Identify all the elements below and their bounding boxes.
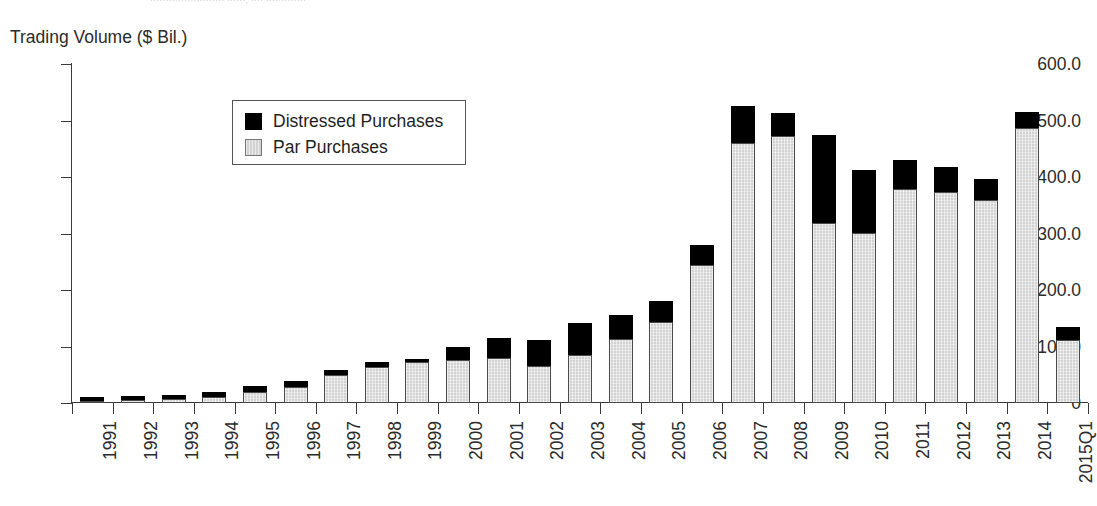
- bar-group[interactable]: [1015, 112, 1039, 403]
- bar-segment-par: [243, 392, 267, 403]
- bar-segment-par: [690, 265, 714, 403]
- x-tick-label: 1997: [344, 421, 365, 460]
- bar-segment-distressed: [1015, 112, 1039, 128]
- x-tick-label: 2005: [669, 421, 690, 460]
- x-tick-label: 2003: [588, 421, 609, 460]
- x-tick-mark: [275, 403, 276, 414]
- x-tick-mark: [844, 403, 845, 414]
- bar-segment-distressed: [771, 113, 795, 137]
- bar-segment-par: [568, 355, 592, 403]
- bar-group[interactable]: [934, 167, 958, 403]
- bar-segment-par: [934, 192, 958, 403]
- bar-segment-par: [162, 399, 186, 403]
- black-square-icon: [245, 113, 262, 130]
- x-tick-label: 2008: [791, 421, 812, 460]
- bar-group[interactable]: [649, 301, 673, 403]
- bar-group[interactable]: [162, 395, 186, 403]
- bar-group[interactable]: [568, 323, 592, 403]
- bar-segment-par: [365, 367, 389, 403]
- x-tick-label: 2001: [507, 421, 528, 460]
- bar-group[interactable]: [324, 370, 348, 403]
- bar-group[interactable]: [771, 113, 795, 403]
- x-tick-mark: [763, 403, 764, 414]
- bar-segment-distressed: [649, 301, 673, 321]
- bar-group[interactable]: [609, 315, 633, 403]
- y-tick-mark: [61, 234, 72, 235]
- bar-group[interactable]: [202, 392, 226, 403]
- x-tick-label: 2007: [751, 421, 772, 460]
- bar-group[interactable]: [527, 340, 551, 403]
- bar-group[interactable]: [974, 179, 998, 403]
- bar-segment-par: [812, 223, 836, 403]
- legend-item-distressed-purchases[interactable]: Distressed Purchases: [245, 109, 465, 133]
- bar-segment-par: [487, 358, 511, 403]
- x-tick-mark: [885, 403, 886, 414]
- bar-group[interactable]: [852, 170, 876, 403]
- bar-group[interactable]: [284, 381, 308, 403]
- x-tick-label: 2015Q1: [1076, 421, 1097, 483]
- x-tick-label: 1996: [304, 421, 325, 460]
- bar-segment-distressed: [690, 245, 714, 265]
- bar-segment-par: [80, 401, 104, 403]
- bar-group[interactable]: [80, 397, 104, 403]
- x-tick-label: 2006: [710, 421, 731, 460]
- bar-group[interactable]: [446, 347, 470, 403]
- x-tick-label: 2002: [547, 421, 568, 460]
- bar-group[interactable]: [1056, 327, 1080, 403]
- x-tick-mark: [722, 403, 723, 414]
- bar-segment-distressed: [609, 315, 633, 339]
- bar-group[interactable]: [243, 386, 267, 403]
- x-tick-label: 1993: [182, 421, 203, 460]
- x-tick-mark: [925, 403, 926, 414]
- x-tick-mark: [600, 403, 601, 414]
- x-tick-mark: [1088, 403, 1089, 414]
- bar-group[interactable]: [893, 160, 917, 403]
- bar-group[interactable]: [365, 362, 389, 403]
- bar-group[interactable]: [121, 396, 145, 403]
- x-tick-mark: [194, 403, 195, 414]
- bar-segment-par: [446, 360, 470, 403]
- bar-series-container: [72, 64, 1088, 403]
- bar-group[interactable]: [405, 359, 429, 403]
- x-tick-mark: [397, 403, 398, 414]
- x-tick-mark: [478, 403, 479, 414]
- x-tick-mark: [641, 403, 642, 414]
- x-tick-mark: [113, 403, 114, 414]
- x-tick-mark: [438, 403, 439, 414]
- bar-group[interactable]: [812, 135, 836, 403]
- x-tick-label: 2011: [913, 421, 934, 459]
- y-tick-mark: [61, 177, 72, 178]
- bar-segment-distressed: [487, 338, 511, 358]
- x-tick-label: 1994: [222, 421, 243, 460]
- bar-segment-par: [405, 362, 429, 403]
- bar-segment-par: [771, 136, 795, 403]
- x-tick-label: 2009: [832, 421, 853, 460]
- bar-segment-par: [852, 233, 876, 403]
- bar-segment-par: [649, 322, 673, 403]
- bar-segment-par: [121, 400, 145, 403]
- bar-group[interactable]: [690, 245, 714, 403]
- x-tick-mark: [316, 403, 317, 414]
- bar-segment-distressed: [568, 323, 592, 355]
- x-tick-mark: [72, 403, 73, 414]
- x-tick-label: 1991: [100, 421, 121, 460]
- grey-square-icon: [245, 139, 262, 156]
- bar-segment-distressed: [893, 160, 917, 189]
- y-tick-mark: [61, 64, 72, 65]
- bar-segment-par: [731, 143, 755, 403]
- x-tick-label: 2000: [466, 421, 487, 460]
- bar-group[interactable]: [731, 106, 755, 403]
- bar-group[interactable]: [487, 338, 511, 403]
- x-tick-label: 1992: [141, 421, 162, 460]
- bar-segment-distressed: [934, 167, 958, 192]
- bar-segment-distressed: [731, 106, 755, 143]
- bar-segment-par: [974, 200, 998, 403]
- legend-item-par-purchases[interactable]: Par Purchases: [245, 135, 465, 159]
- bar-segment-distressed: [527, 340, 551, 365]
- x-tick-mark: [804, 403, 805, 414]
- x-tick-mark: [356, 403, 357, 414]
- x-tick-mark: [1047, 403, 1048, 414]
- bar-segment-par: [1015, 128, 1039, 403]
- x-tick-label: 1995: [263, 421, 284, 460]
